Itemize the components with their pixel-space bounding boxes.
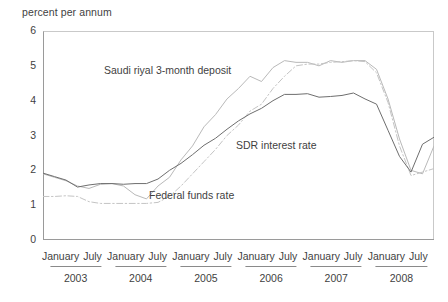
- y-axis-title: percent per annum: [22, 6, 112, 18]
- series-label-federal-funds: Federal funds rate: [149, 189, 234, 201]
- x-tick-1: July: [83, 250, 102, 262]
- x-year-2006: 2006: [259, 272, 282, 284]
- x-tick-4: January: [172, 250, 209, 262]
- x-tick-6: January: [237, 250, 274, 262]
- y-tick-1: 1: [18, 198, 36, 210]
- interest-rate-chart: percent per annum 0123456 JanuaryJulyJan…: [0, 0, 448, 302]
- x-tick-10: January: [368, 250, 405, 262]
- x-year-2003: 2003: [64, 272, 87, 284]
- y-tick-2: 2: [18, 163, 36, 175]
- year-rule-2004: [115, 266, 166, 267]
- year-rule-2008: [376, 266, 427, 267]
- x-tick-11: July: [409, 250, 428, 262]
- x-year-2004: 2004: [129, 272, 152, 284]
- y-tick-5: 5: [18, 59, 36, 71]
- x-year-2008: 2008: [390, 272, 413, 284]
- plot-svg: [43, 31, 434, 240]
- series-label-saudi-riyal: Saudi riyal 3-month deposit: [104, 64, 231, 76]
- series-line-0: [43, 61, 434, 199]
- year-rule-2007: [311, 266, 362, 267]
- x-year-2007: 2007: [325, 272, 348, 284]
- year-rule-2005: [180, 266, 231, 267]
- x-tick-7: July: [279, 250, 298, 262]
- x-year-2005: 2005: [194, 272, 217, 284]
- series-label-sdr: SDR interest rate: [236, 139, 317, 151]
- x-tick-0: January: [42, 250, 79, 262]
- x-tick-9: July: [344, 250, 363, 262]
- year-rule-2003: [50, 266, 101, 267]
- x-tick-8: January: [303, 250, 340, 262]
- plot-area: [43, 31, 434, 240]
- year-rule-2006: [246, 266, 297, 267]
- y-tick-0: 0: [18, 233, 36, 245]
- x-tick-2: January: [107, 250, 144, 262]
- y-tick-3: 3: [18, 129, 36, 141]
- y-tick-6: 6: [18, 24, 36, 36]
- series-line-1: [43, 61, 434, 204]
- x-tick-3: July: [148, 250, 167, 262]
- y-tick-4: 4: [18, 94, 36, 106]
- x-tick-5: July: [214, 250, 233, 262]
